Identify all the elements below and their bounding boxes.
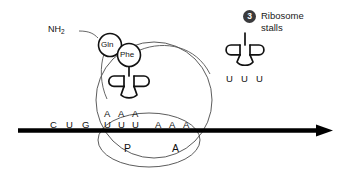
polypeptide-exit-curve [140, 45, 210, 74]
trna-free-anticodon-base-2: U [241, 74, 248, 84]
ribosome-site-p-label: P [124, 143, 131, 154]
mrna-base-upstream-1: C [50, 120, 57, 130]
trna-free [226, 33, 264, 65]
nterm-text: NH [48, 24, 61, 34]
amino-acid-phe-label: Phe [120, 51, 134, 59]
mrna-base-asite-1: A [155, 120, 161, 130]
polypeptide-nterm-label: NH2 [48, 25, 65, 34]
mrna-base-upstream-3: G [82, 120, 89, 130]
ribosome-site-a-label: A [172, 143, 179, 154]
step-callout-line-2: stalls [261, 22, 304, 34]
polypeptide-gln-curve [101, 54, 107, 99]
mrna-base-asite-2: A [169, 120, 175, 130]
step-callout-ribosome-stalls: 3 Ribosome stalls [243, 10, 304, 34]
ribosome-large-subunit [96, 42, 212, 158]
step-number-badge: 3 [243, 10, 256, 23]
trna-anticodon-base-3: A [132, 109, 138, 119]
mrna-base-psite-2: U [118, 120, 125, 130]
nterm-subscript: 2 [61, 28, 65, 35]
trna-free-anticodon-base-3: U [256, 74, 263, 84]
trna-anticodon-base-1: A [104, 109, 110, 119]
figure-canvas: NH2 Gln Phe A A A C U G U U U A A A U U … [0, 0, 346, 182]
mrna-arrowhead [316, 125, 333, 137]
step-callout-line-1: Ribosome [261, 10, 304, 22]
mrna-base-asite-3: A [183, 120, 189, 130]
mrna-base-upstream-2: U [66, 120, 73, 130]
trna-anticodon-base-2: A [118, 109, 124, 119]
step-callout-text: Ribosome stalls [261, 10, 304, 34]
polypeptide-nterm-link [79, 31, 98, 38]
mrna-base-psite-3: U [132, 120, 139, 130]
mrna-base-psite-1: U [104, 120, 111, 130]
trna-free-anticodon-base-1: U [226, 74, 233, 84]
amino-acid-gln-label: Gln [101, 41, 113, 49]
